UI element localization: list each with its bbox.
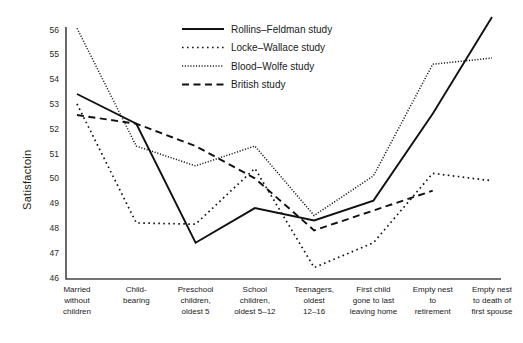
svg-text:Teenagers,: Teenagers, xyxy=(294,285,334,294)
legend-item-3: Blood–Wolfe study xyxy=(182,61,314,72)
svg-text:children: children xyxy=(63,307,91,316)
x-tick-label: Empty nestto death offirst spouse xyxy=(472,285,513,316)
svg-text:without: without xyxy=(63,296,90,305)
svg-text:Empty nest: Empty nest xyxy=(413,285,454,294)
y-tick-label: 55 xyxy=(50,49,60,59)
svg-text:Preschool: Preschool xyxy=(178,285,214,294)
x-tick-label: Empty nesttoretirement xyxy=(413,285,454,316)
legend-label-3: Blood–Wolfe study xyxy=(231,61,314,72)
svg-text:First child: First child xyxy=(356,285,390,294)
x-tick-label: Child-bearing xyxy=(123,285,150,305)
svg-text:Married: Married xyxy=(63,285,90,294)
y-tick-label: 48 xyxy=(50,223,60,233)
y-tick-label: 56 xyxy=(50,25,60,35)
x-axis-tick-labels: MarriedwithoutchildrenChild-bearingPresc… xyxy=(63,285,513,316)
y-tick-label: 47 xyxy=(50,248,60,258)
svg-text:Empty nest: Empty nest xyxy=(472,285,513,294)
svg-text:bearing: bearing xyxy=(123,296,150,305)
y-tick-label: 54 xyxy=(50,74,60,84)
chart-legend: Rollins–Feldman studyLocke–Wallace study… xyxy=(182,24,332,91)
series-line-3 xyxy=(77,28,492,215)
svg-text:first spouse: first spouse xyxy=(472,307,513,316)
y-axis-tick-labels: 4647484950515253545556 xyxy=(50,25,60,283)
x-tick-label: Schoolchildren,oldest 5–12 xyxy=(234,285,276,316)
legend-item-1: Rollins–Feldman study xyxy=(182,24,332,35)
x-tick-label: Teenagers,oldest12–16 xyxy=(294,285,334,316)
line-chart: Satisfactoin 4647484950515253545556 Marr… xyxy=(0,0,523,343)
legend-item-4: British study xyxy=(182,79,285,90)
svg-text:to: to xyxy=(429,296,436,305)
chart-figure: Satisfactoin 4647484950515253545556 Marr… xyxy=(0,0,523,343)
x-tick-label: Preschoolchildren,oldest 5 xyxy=(178,285,214,316)
y-tick-label: 46 xyxy=(50,273,60,283)
svg-text:gone to last: gone to last xyxy=(353,296,395,305)
y-tick-label: 53 xyxy=(50,99,60,109)
svg-text:leaving home: leaving home xyxy=(350,307,398,316)
legend-label-1: Rollins–Feldman study xyxy=(231,24,332,35)
svg-text:to death of: to death of xyxy=(473,296,512,305)
svg-text:children,: children, xyxy=(180,296,210,305)
y-tick-label: 52 xyxy=(50,124,60,134)
svg-text:oldest 5–12: oldest 5–12 xyxy=(234,307,276,316)
x-tick-label: First childgone to lastleaving home xyxy=(350,285,398,316)
svg-text:retirement: retirement xyxy=(415,307,452,316)
y-tick-label: 49 xyxy=(50,198,60,208)
svg-text:children,: children, xyxy=(240,296,270,305)
svg-text:oldest 5: oldest 5 xyxy=(182,307,211,316)
svg-text:Child-: Child- xyxy=(126,285,147,294)
legend-item-2: Locke–Wallace study xyxy=(182,42,325,53)
svg-text:12–16: 12–16 xyxy=(303,307,326,316)
y-tick-label: 51 xyxy=(50,149,60,159)
data-series-group xyxy=(77,17,492,267)
y-tick-label: 50 xyxy=(50,173,60,183)
x-tick-label: Marriedwithoutchildren xyxy=(63,285,91,316)
svg-text:School: School xyxy=(243,285,268,294)
svg-text:oldest: oldest xyxy=(303,296,325,305)
y-axis-title: Satisfactoin xyxy=(21,150,33,210)
legend-label-2: Locke–Wallace study xyxy=(231,42,325,53)
legend-label-4: British study xyxy=(231,79,285,90)
series-line-4 xyxy=(77,115,433,230)
